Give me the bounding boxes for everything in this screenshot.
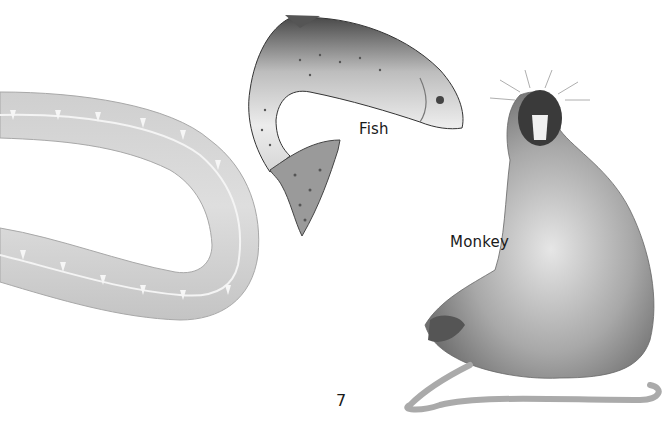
monkey-label: Monkey	[450, 233, 509, 251]
illustration-canvas	[0, 0, 672, 423]
page-number: 7	[336, 391, 346, 410]
fish-illustration	[249, 15, 463, 236]
eel-illustration	[0, 92, 259, 320]
fish-label: Fish	[359, 120, 389, 138]
